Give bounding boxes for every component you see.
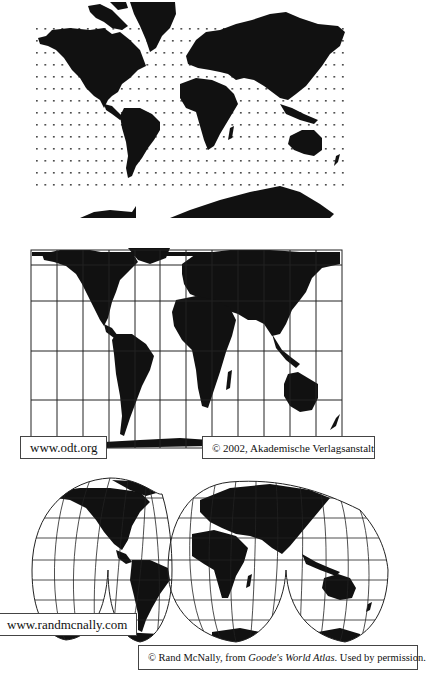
odt-url-text: www.odt.org [30,440,98,455]
south-america [112,334,154,436]
credit-prefix: © Rand McNally, from [148,652,248,663]
australia [322,574,356,600]
randmcnally-credit-label: © Rand McNally, from Goode's World Atlas… [138,645,418,670]
mercator-world-map [0,0,419,230]
madagascar [226,370,232,390]
africa [192,530,248,598]
madagascar [246,574,252,588]
antarctica-main [170,186,334,218]
akademische-credit-label: © 2002, Akademische Verlagsanstalt [202,436,375,459]
africa [172,296,236,408]
randmcnally-url-text: www.randmcnally.com [7,617,127,632]
odt-url-label: www.odt.org [20,436,107,459]
akademische-credit-text: © 2002, Akademische Verlagsanstalt [212,442,374,454]
new-zealand [330,414,340,430]
antarctica [104,438,210,448]
australia [284,372,318,412]
north-america [50,488,150,550]
north-america [42,250,138,326]
southeast-asia [302,554,340,576]
atlas-title: Goode's World Atlas [248,652,334,663]
antarctica [80,206,136,218]
randmcnally-url-label: www.randmcnally.com [0,613,137,636]
central-america [116,550,132,564]
mercator-map-graphic [0,0,419,230]
arctic-islands-2 [110,2,128,10]
credit-suffix: . Used by permission. [335,652,426,663]
